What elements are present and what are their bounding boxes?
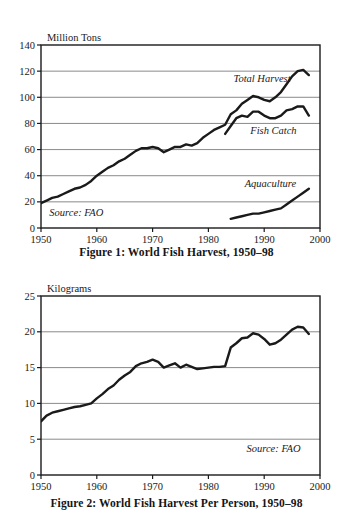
x-tick-label: 1960 bbox=[86, 234, 107, 245]
annotation-source-fao: Source: FAO bbox=[247, 443, 301, 454]
x-axis: 195019601970198019902000 bbox=[31, 475, 331, 492]
figure-1-caption: Figure 1: World Fish Harvest, 1950–98 bbox=[0, 246, 353, 258]
x-tick-label: 1970 bbox=[142, 234, 163, 245]
y-tick-label: 100 bbox=[19, 92, 35, 103]
y-tick-label: 25 bbox=[25, 291, 36, 302]
y-axis: 020406080100120140 bbox=[19, 40, 41, 234]
y-tick-label: 0 bbox=[30, 470, 35, 481]
annotation-total-harvest: Total Harvest bbox=[234, 73, 292, 84]
x-tick-label: 1950 bbox=[31, 481, 52, 492]
y-axis: 0510152025 bbox=[25, 291, 42, 481]
x-tick-label: 2000 bbox=[310, 481, 331, 492]
annotation-source-fao: Source: FAO bbox=[49, 207, 103, 218]
x-tick-label: 1980 bbox=[198, 481, 219, 492]
series-line-aquaculture bbox=[231, 189, 309, 219]
y-tick-label: 80 bbox=[25, 118, 36, 129]
figure-1-block: 0204060801001201401950196019701980199020… bbox=[0, 0, 353, 268]
annotation-aquaculture: Aquaculture bbox=[244, 178, 297, 189]
figure-2-caption: Figure 2: World Fish Harvest Per Person,… bbox=[0, 497, 353, 509]
figure-1-chart-area: 0204060801001201401950196019701980199020… bbox=[0, 0, 353, 245]
x-tick-label: 1990 bbox=[254, 481, 275, 492]
x-tick-label: 1970 bbox=[142, 481, 163, 492]
figure-2-block: 0510152025195019601970198019902000Kilogr… bbox=[0, 268, 353, 527]
series-line-per-person-harvest bbox=[41, 327, 309, 422]
x-tick-label: 1960 bbox=[86, 481, 107, 492]
x-axis: 195019601970198019902000 bbox=[31, 228, 331, 245]
y-tick-label: 140 bbox=[19, 40, 35, 51]
x-tick-label: 1980 bbox=[198, 234, 219, 245]
series-group bbox=[41, 70, 309, 219]
y-tick-label: 0 bbox=[30, 223, 35, 234]
series-group bbox=[41, 327, 309, 422]
y-axis-unit-label: Million Tons bbox=[47, 32, 101, 43]
y-tick-label: 10 bbox=[25, 398, 36, 409]
gridlines bbox=[41, 332, 320, 439]
annotation-fish-catch: Fish Catch bbox=[249, 125, 296, 136]
x-tick-label: 1950 bbox=[31, 234, 52, 245]
world-fish-harvest-chart: 0204060801001201401950196019701980199020… bbox=[0, 0, 353, 245]
y-tick-label: 20 bbox=[25, 326, 36, 337]
y-tick-label: 60 bbox=[25, 144, 36, 155]
x-tick-label: 1990 bbox=[254, 234, 275, 245]
y-tick-label: 15 bbox=[25, 362, 36, 373]
world-fish-harvest-per-person-chart: 0510152025195019601970198019902000Kilogr… bbox=[0, 268, 353, 495]
y-tick-label: 5 bbox=[30, 434, 35, 445]
y-tick-label: 120 bbox=[19, 66, 35, 77]
y-tick-label: 20 bbox=[25, 196, 36, 207]
figure-2-chart-area: 0510152025195019601970198019902000Kilogr… bbox=[0, 268, 353, 495]
y-tick-label: 40 bbox=[25, 170, 36, 181]
y-axis-unit-label: Kilograms bbox=[47, 283, 91, 294]
x-tick-label: 2000 bbox=[310, 234, 331, 245]
